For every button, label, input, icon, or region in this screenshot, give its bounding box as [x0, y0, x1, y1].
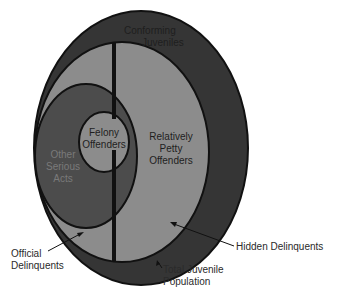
divider-line-top — [112, 42, 116, 119]
felony-offenders-label: Felony Offenders — [78, 127, 130, 151]
other-serious-acts-label: Other Serious Acts — [39, 149, 87, 185]
label-line: Acts — [39, 173, 87, 185]
label-line: Felony — [78, 127, 130, 139]
label-line: Conforming — [124, 25, 184, 37]
petty-offenders-label: Relatively Petty Offenders — [138, 131, 204, 167]
label-line: Official — [11, 248, 64, 260]
label-line: Total Juvenile — [163, 264, 224, 276]
label-line: Juveniles — [124, 37, 184, 49]
label-line: Petty — [138, 143, 204, 155]
label-line: Relatively — [138, 131, 204, 143]
label-line: Delinquents — [11, 260, 64, 272]
label-line: Other — [39, 149, 87, 161]
official-delinquents-label: Official Delinquents — [11, 248, 64, 272]
label-line: Offenders — [138, 155, 204, 167]
label-line: Population — [163, 276, 224, 288]
total-juvenile-population-label: Total Juvenile Population — [163, 264, 224, 288]
label-line: Serious — [39, 161, 87, 173]
hidden-delinquents-label: Hidden Delinquents — [236, 241, 323, 253]
label-line: Hidden Delinquents — [236, 241, 323, 253]
divider-line-bottom — [112, 150, 116, 262]
conforming-juveniles-label: Conforming Juveniles — [124, 25, 184, 49]
